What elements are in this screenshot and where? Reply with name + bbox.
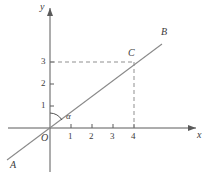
angle-label-alpha: α [66,112,71,121]
x-axis-label: x [197,130,201,140]
y-tick-label-3: 3 [41,57,46,66]
x-tick-label-3: 3 [110,132,115,141]
y-axis-arrowhead [47,8,53,16]
y-tick-label-1: 1 [41,101,46,110]
origin-label: O [41,133,48,143]
angle-arc [50,113,62,120]
geometry-figure: 1 2 3 4 1 2 3 y x O A B C α [0,0,215,179]
y-axis-label: y [40,2,44,12]
point-label-c: C [128,48,135,58]
figure-canvas [0,0,215,179]
line-ab [7,44,162,160]
x-tick-label-2: 2 [89,132,94,141]
x-tick-label-4: 4 [131,132,136,141]
y-tick-label-2: 2 [41,79,46,88]
x-tick-label-1: 1 [68,132,73,141]
point-label-a: A [10,160,16,170]
point-label-b: B [161,27,167,37]
x-axis-arrowhead [188,125,196,131]
